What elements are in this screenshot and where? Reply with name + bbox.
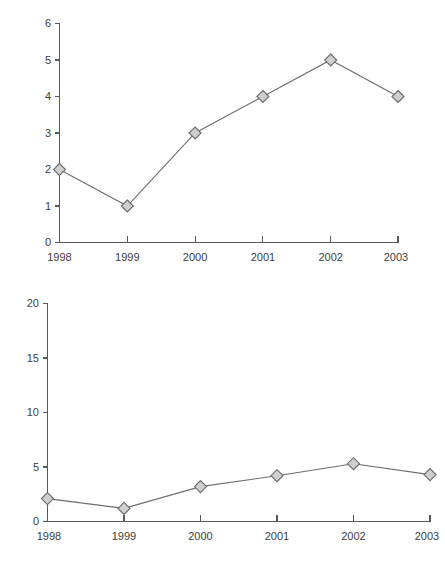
bottom-marker-2000 [195,481,207,493]
bottom-marker-2002 [348,458,360,470]
top-ytick-label-6: 6 [45,17,51,29]
bottom-chart-panel: 0 5 10 15 20 1998 1999 2000 2001 2002 20… [0,280,445,561]
bottom-xtick-label-2002: 2002 [341,530,365,542]
top-xtick-label-2003: 2003 [384,251,408,263]
bottom-xtick-label-1999: 1999 [112,530,136,542]
top-marker-2002 [325,54,337,66]
top-marker-2003 [392,91,404,103]
top-ytick-label-4: 4 [45,90,51,102]
bottom-series-line [48,464,431,509]
bottom-ytick-label-15: 15 [27,352,39,364]
top-ytick-label-5: 5 [45,54,51,66]
top-x-ticks [60,236,399,243]
bottom-xtick-label-1998: 1998 [37,530,61,542]
bottom-ytick-label-0: 0 [33,515,39,527]
bottom-xtick-label-2001: 2001 [265,530,289,542]
top-marker-2001 [257,91,269,103]
bottom-ytick-label-20: 20 [27,297,39,309]
top-xtick-label-2002: 2002 [318,251,342,263]
bottom-ytick-label-10: 10 [27,406,39,418]
top-chart-svg: 0 1 2 3 4 5 6 1998 1999 2000 2001 2002 2… [0,0,445,280]
bottom-xtick-label-2003: 2003 [415,530,439,542]
top-ytick-label-1: 1 [45,200,51,212]
top-y-ticks [55,24,60,243]
bottom-x-ticks [48,515,431,522]
two-panel-line-chart-figure: 0 1 2 3 4 5 6 1998 1999 2000 2001 2002 2… [0,0,445,561]
bottom-marker-2001 [271,470,283,482]
top-xtick-label-2000: 2000 [183,251,207,263]
bottom-ytick-label-5: 5 [33,461,39,473]
bottom-marker-1998 [42,493,54,505]
bottom-marker-1999 [118,502,130,514]
top-ytick-label-3: 3 [45,127,51,139]
bottom-y-ticks [43,304,48,522]
top-marker-1998 [54,164,66,176]
top-xtick-label-1998: 1998 [47,251,71,263]
bottom-xtick-label-2000: 2000 [188,530,212,542]
top-ytick-label-2: 2 [45,163,51,175]
top-chart-panel: 0 1 2 3 4 5 6 1998 1999 2000 2001 2002 2… [0,0,445,280]
top-xtick-label-2001: 2001 [251,251,275,263]
top-series-markers [54,54,405,212]
top-xtick-label-1999: 1999 [115,251,139,263]
top-series-line [60,60,399,206]
bottom-chart-svg: 0 5 10 15 20 1998 1999 2000 2001 2002 20… [0,280,445,561]
top-ytick-label-0: 0 [45,236,51,248]
bottom-marker-2003 [424,469,436,481]
